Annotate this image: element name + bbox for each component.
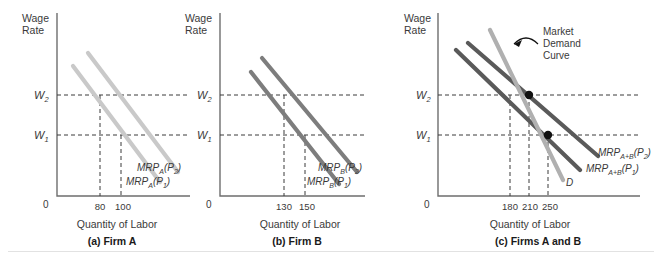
panel-c-annotation-line1: Market [543, 26, 574, 37]
panel-a-yaxis-title-line2: Rate [22, 24, 44, 36]
panel-c-label-mrp-p2: MRPA+B(P2) [598, 147, 651, 160]
panel-c-xtick-180: 180 [502, 201, 518, 212]
panel-c-yaxis-title-line2: Rate [404, 24, 426, 36]
panel-a-curve-mrp-p2 [88, 53, 178, 172]
panel-a-caption: (a) Firm A [88, 235, 137, 247]
panel-c-xtick-210: 210 [522, 201, 538, 212]
panel-c-caption: (c) Firms A and B [495, 235, 582, 247]
panel-a-w1-label: W1 [34, 129, 49, 144]
panel-c-annotation-line3: Curve [543, 50, 570, 61]
panel-b-xtick-130: 130 [276, 201, 292, 212]
panel-c-label-market-demand: D [566, 177, 573, 188]
panel-b-svg: Wage Rate W2 W1 0 130 150 Quantity of La… [215, 0, 430, 261]
panel-a-xaxis-title: Quantity of Labor [77, 218, 158, 230]
panel-firms-a-and-b: Wage Rate W2 W1 0 180 210 250 Quantity o… [430, 0, 662, 261]
panel-firm-a: Wage Rate W2 W1 0 80 100 Quantity of Lab… [0, 0, 215, 261]
panel-c-equilibrium-point-w2-210 [525, 91, 533, 99]
panel-c-xaxis-title: Quantity of Labor [490, 218, 571, 230]
panel-c-origin-label: 0 [424, 199, 430, 210]
panel-c-curve-mrp-p1 [456, 50, 580, 170]
panel-a-w2-label: W2 [34, 89, 49, 104]
panel-c-curve-mrp-p2 [468, 43, 598, 156]
panel-b-label-mrp-p1: MRPB(P1) [307, 176, 351, 189]
panel-c-xtick-250: 250 [542, 201, 558, 212]
panel-a-xtick-80: 80 [95, 201, 106, 212]
panel-b-xaxis-title: Quantity of Labor [260, 218, 341, 230]
panel-c-label-mrp-p1: MRPA+B(P1) [586, 163, 639, 176]
panel-a-yaxis-title-line1: Wage [22, 12, 49, 24]
labor-demand-figure: Wage Rate W2 W1 0 80 100 Quantity of Lab… [0, 0, 662, 261]
panel-firm-b: Wage Rate W2 W1 0 130 150 Quantity of La… [215, 0, 430, 261]
panel-b-yaxis-title-line2: Rate [185, 24, 207, 36]
panel-b-xtick-150: 150 [299, 201, 315, 212]
panel-b-origin-label: 0 [206, 199, 212, 210]
panel-a-label-mrp-p1: MRPA(P1) [126, 176, 170, 189]
figure-bottom-rule [8, 251, 654, 252]
panel-b-label-mrp-p2: MRPB(P2) [318, 162, 362, 175]
panel-a-xtick-100: 100 [115, 201, 131, 212]
panel-c-svg: Wage Rate W2 W1 0 180 210 250 Quantity o… [430, 0, 662, 261]
panel-c-equilibrium-point-w1-250 [544, 131, 552, 139]
panel-b-caption: (b) Firm B [272, 235, 322, 247]
panel-c-yaxis-title-line1: Wage [404, 12, 431, 24]
panel-a-svg: Wage Rate W2 W1 0 80 100 Quantity of Lab… [0, 0, 215, 261]
panel-b-yaxis-title-line1: Wage [185, 12, 212, 24]
panel-b-curve-mrp-p2 [262, 58, 357, 172]
panel-a-origin-label: 0 [43, 199, 49, 210]
panel-c-annotation-line2: Demand [543, 38, 581, 49]
